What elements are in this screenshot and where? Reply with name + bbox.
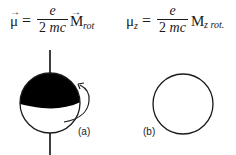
circle-b-outline <box>153 74 213 134</box>
fraction-e-over-2mc: e 2 mc <box>37 4 68 35</box>
subscript-z-rot: z rot. <box>204 19 224 30</box>
label-b: (b) <box>143 126 155 137</box>
subscript-z: z <box>134 20 138 31</box>
equals-sign: = <box>22 12 31 30</box>
M-symbol: M <box>191 13 204 30</box>
denominator: 2 mc <box>157 21 188 35</box>
denominator-number: 2 <box>39 20 46 35</box>
denominator-vars: mc <box>50 20 66 35</box>
mu-vector: → μ <box>10 13 18 30</box>
textbook-page: → μ = e 2 mc → M rot μ z = e 2 mc M z ro… <box>0 0 236 155</box>
denominator: 2 mc <box>37 21 68 35</box>
denominator-vars: mc <box>170 20 186 35</box>
sphere-a-dark-hemisphere <box>15 70 90 109</box>
spin-diagram <box>0 40 236 155</box>
mu-symbol: μ <box>126 13 134 30</box>
equals-sign: = <box>142 12 151 30</box>
vector-arrow-icon: → <box>71 7 81 17</box>
formula-magnetic-moment-z: μ z = e 2 mc M z rot. <box>110 4 236 36</box>
numerator: e <box>37 4 68 18</box>
fraction-e-over-2mc: e 2 mc <box>157 4 188 35</box>
subscript-rot: rot <box>83 20 94 31</box>
vector-arrow-icon: → <box>10 7 20 17</box>
M-vector: → M <box>70 13 83 30</box>
denominator-number: 2 <box>159 20 166 35</box>
numerator: e <box>157 4 188 18</box>
formula-magnetic-moment-vector: → μ = e 2 mc → M rot <box>0 4 110 36</box>
label-a: (a) <box>78 126 90 137</box>
